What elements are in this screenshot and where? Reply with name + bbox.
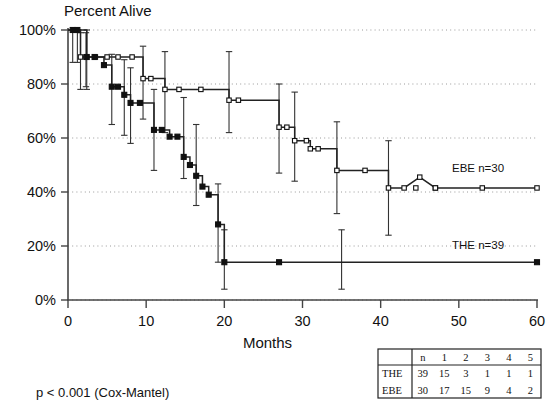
- step-marker-open: [277, 125, 281, 129]
- censor-marker-filled: [137, 100, 142, 105]
- table-header-cell: 1: [442, 352, 447, 363]
- step-marker-open: [386, 186, 390, 190]
- censor-marker-open: [285, 125, 289, 129]
- y-tick-label: 100%: [19, 22, 56, 38]
- step-marker-filled: [84, 55, 89, 60]
- series-ebe: [68, 30, 539, 235]
- y-tick-label: 20%: [27, 238, 56, 254]
- censor-marker-open: [402, 186, 406, 190]
- series-label-the: THE n=39: [452, 239, 504, 251]
- censor-marker-open: [414, 186, 418, 190]
- table-cell: 15: [439, 368, 450, 379]
- censor-marker-open: [130, 55, 134, 59]
- censor-marker-open: [535, 186, 539, 190]
- censor-marker-open: [116, 55, 120, 59]
- censor-marker-filled: [159, 127, 164, 132]
- step-marker-open: [335, 168, 339, 172]
- censor-marker-open: [149, 76, 153, 80]
- table-cell: 15: [461, 385, 472, 396]
- x-tick-label: 10: [138, 313, 154, 329]
- kaplan-meier-chart: 0%20%40%60%80%100%0102030405060MonthsPer…: [0, 0, 560, 419]
- y-tick-label: 80%: [27, 76, 56, 92]
- censor-marker-open: [177, 87, 181, 91]
- step-marker-filled: [128, 100, 133, 105]
- step-marker-filled: [206, 192, 211, 197]
- table-header-cell: 2: [463, 352, 468, 363]
- chart-title: Percent Alive: [64, 2, 152, 19]
- step-marker-filled: [222, 260, 227, 265]
- censor-marker-open: [105, 55, 109, 59]
- censor-marker-open: [304, 139, 308, 143]
- y-tick-label: 40%: [27, 184, 56, 200]
- y-tick-label: 0%: [35, 292, 56, 308]
- y-tick-label: 60%: [27, 130, 56, 146]
- step-marker-open: [292, 139, 296, 143]
- survival-chart-figure: 0%20%40%60%80%100%0102030405060MonthsPer…: [0, 0, 560, 419]
- step-marker-open: [227, 98, 231, 102]
- step-marker-open: [78, 55, 82, 59]
- table-cell: 1: [485, 368, 490, 379]
- censor-marker-filled: [75, 28, 80, 33]
- step-marker-filled: [101, 63, 106, 68]
- table-cell: 39: [418, 368, 429, 379]
- table-row-label: EBE: [382, 385, 402, 396]
- table-cell: 1: [506, 368, 511, 379]
- x-tick-label: 0: [64, 313, 72, 329]
- step-marker-filled: [200, 184, 205, 189]
- censor-marker-open: [236, 98, 240, 102]
- censor-marker-filled: [92, 55, 97, 60]
- at-risk-table: n12345THE39153111EBE301715942: [378, 349, 541, 398]
- step-marker-filled: [187, 163, 192, 168]
- table-cell: 3: [463, 368, 468, 379]
- table-cell: 2: [528, 385, 533, 396]
- step-marker-open: [308, 147, 312, 151]
- table-header-cell: n: [420, 352, 426, 363]
- censor-marker-filled: [277, 260, 282, 265]
- censor-marker-filled: [116, 84, 121, 89]
- step-marker-filled: [109, 84, 114, 89]
- table-cell: 9: [485, 385, 490, 396]
- x-tick-label: 20: [216, 313, 232, 329]
- x-tick-label: 30: [294, 313, 310, 329]
- table-cell: 17: [439, 385, 450, 396]
- p-value-note: p < 0.001 (Cox-Mantel): [36, 385, 169, 400]
- step-marker-filled: [181, 154, 186, 159]
- table-header-cell: 5: [528, 352, 533, 363]
- censor-marker-filled: [175, 134, 180, 139]
- step-marker-filled: [216, 222, 221, 227]
- censor-marker-filled: [535, 260, 540, 265]
- step-marker-open: [141, 76, 145, 80]
- table-border: [378, 349, 541, 398]
- step-marker-filled: [122, 92, 127, 97]
- table-header-cell: 4: [506, 352, 512, 363]
- table-row-label: THE: [382, 368, 402, 379]
- censor-marker-open: [480, 186, 484, 190]
- step-marker-open: [163, 87, 167, 91]
- step-marker-open: [418, 175, 422, 179]
- step-marker-filled: [194, 173, 199, 178]
- table-cell: 1: [528, 368, 533, 379]
- censor-marker-open: [316, 147, 320, 151]
- survival-step-line: [68, 30, 537, 262]
- series-label-ebe: EBE n=30: [452, 162, 504, 174]
- censor-marker-open: [363, 168, 367, 172]
- x-tick-label: 60: [529, 313, 545, 329]
- table-header-cell: 3: [485, 352, 490, 363]
- x-tick-label: 40: [373, 313, 389, 329]
- table-cell: 4: [506, 385, 512, 396]
- censor-marker-open: [199, 87, 203, 91]
- table-cell: 30: [418, 385, 429, 396]
- x-tick-label: 50: [451, 313, 467, 329]
- x-axis-title: Months: [243, 334, 292, 351]
- step-marker-filled: [167, 134, 172, 139]
- step-marker-filled: [151, 127, 156, 132]
- step-marker-open: [433, 186, 437, 190]
